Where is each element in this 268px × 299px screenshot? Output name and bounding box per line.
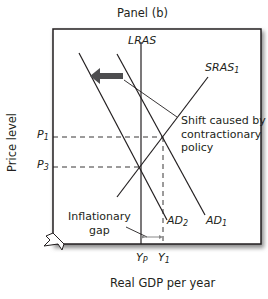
sras1-label: SRAS1 [205,62,239,75]
y-axis-label: Price level [5,113,19,172]
ad1-label: AD1 [206,215,227,228]
shift-annotation-line2: contractionary [181,128,266,142]
shift-annotation: Shift caused by contractionary policy [181,114,266,155]
p1-tick-label: P1 [37,129,49,142]
x-axis-label: Real GDP per year [110,278,215,290]
shift-annotation-line1: Shift caused by [181,114,266,128]
panel-title: Panel (b) [117,8,168,20]
lras-label: LRAS [128,35,156,46]
gap-annotation-line1: Inflationary [68,210,131,224]
p3-tick-label: P3 [37,159,49,172]
y1-tick-label: Y1 [158,252,170,265]
inflationary-gap-annotation: Inflationary gap [68,210,131,238]
shift-annotation-line3: policy [181,141,266,155]
yp-tick-label: YP [136,252,148,265]
gap-annotation-line2: gap [68,224,131,238]
ad2-label: AD2 [167,215,188,228]
